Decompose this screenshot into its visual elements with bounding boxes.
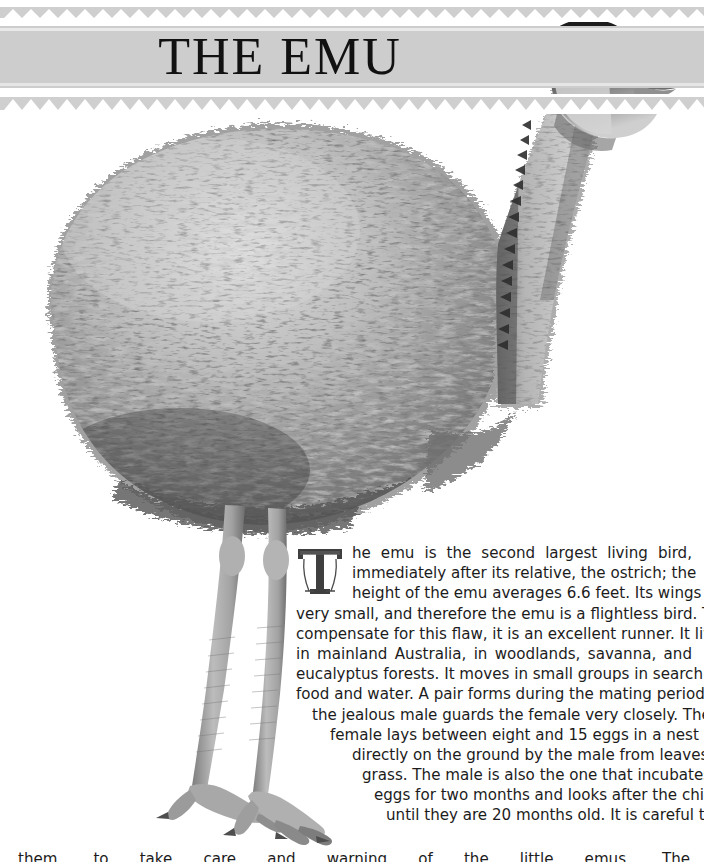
page-root: THE EMU he emu is the second largest liv… xyxy=(0,0,704,862)
article-line: until they are 20 months old. It is care… xyxy=(296,805,692,825)
article-line: immediately after its relative, the ostr… xyxy=(296,563,692,583)
article-line: food and water. A pair forms during the … xyxy=(296,684,692,704)
dropcap-letter-T xyxy=(296,545,344,597)
zigzag-pattern-bottom-icon xyxy=(0,94,704,114)
article-line: height of the emu averages 6.6 feet. Its… xyxy=(296,583,692,603)
zigzag-band-bottom xyxy=(0,94,704,114)
article-line-clipped: them, to take care and warning of the li… xyxy=(18,849,690,862)
article-line: he emu is the second largest living bird… xyxy=(296,543,692,563)
article-line: female lays between eight and 15 eggs in… xyxy=(296,725,692,745)
article-line: directly on the ground by the male from … xyxy=(296,745,692,765)
zigzag-band-top xyxy=(0,4,704,22)
article-line: very small, and therefore the emu is a f… xyxy=(296,604,692,624)
emu-body xyxy=(40,110,520,540)
article-line: eggs for two months and looks after the … xyxy=(296,785,692,805)
header-banner: THE EMU xyxy=(0,0,704,118)
article-line: eucalyptus forests. It moves in small gr… xyxy=(296,664,692,684)
article-line: grass. The male is also the one that inc… xyxy=(296,765,692,785)
article-body: he emu is the second largest living bird… xyxy=(296,543,692,826)
article-line: compensate for this flaw, it is an excel… xyxy=(296,624,692,644)
zigzag-pattern-top-icon xyxy=(0,4,704,22)
page-title: THE EMU xyxy=(0,24,560,90)
article-line: in mainland Australia, in woodlands, sav… xyxy=(296,644,692,664)
article-line: the jealous male guards the female very … xyxy=(296,705,692,725)
